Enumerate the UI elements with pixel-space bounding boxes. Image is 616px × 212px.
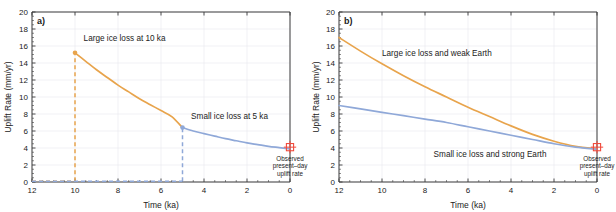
x-tick-label: 12: [28, 186, 37, 195]
observed-present-day-uplift-rate: Observedpresent–dayuplift rate: [580, 141, 616, 178]
small-ice-strong-earth-label: Small ice loss and strong Earth: [434, 150, 547, 159]
small-ice-loss-label: Small ice loss at 5 ka: [191, 112, 268, 121]
y-axis: 02468101214161820: [19, 8, 35, 187]
x-tick-label: 4: [202, 186, 207, 195]
observed-label-line: uplift rate: [277, 170, 303, 178]
x-tick-label: 0: [595, 186, 600, 195]
y-tick-label: 16: [326, 42, 335, 51]
y-tick-label: 8: [331, 110, 336, 119]
x-tick-label: 0: [288, 186, 293, 195]
y-tick-label: 14: [326, 59, 335, 68]
y-tick-label: 8: [24, 110, 29, 119]
y-tick-label: 10: [19, 93, 28, 102]
chart-panel-b: 02468101214161820121086420Time (ka)Uplif…: [308, 0, 616, 212]
y-tick-label: 2: [24, 161, 29, 170]
y-tick-label: 16: [19, 42, 28, 51]
x-tick-label: 2: [552, 186, 557, 195]
y-tick-label: 12: [19, 76, 28, 85]
y-tick-label: 20: [326, 8, 335, 17]
x-tick-label: 8: [423, 186, 428, 195]
panel-letter-a: a): [37, 16, 45, 26]
y-tick-label: 10: [326, 93, 335, 102]
x-axis-title: Time (ka): [450, 200, 486, 210]
x-tick-label: 6: [466, 186, 471, 195]
x-tick-label: 12: [335, 186, 344, 195]
x-tick-label: 2: [245, 186, 250, 195]
y-tick-label: 20: [19, 8, 28, 17]
annotations-group: Large ice loss at 10 kaSmall ice loss at…: [84, 34, 269, 121]
x-axis-title: Time (ka): [143, 200, 179, 210]
large-ice-weak-earth-label: Large ice loss and weak Earth: [382, 49, 492, 58]
y-tick-label: 18: [19, 25, 28, 34]
y-tick-label: 12: [326, 76, 335, 85]
annotations-group: Large ice loss and weak EarthSmall ice l…: [382, 49, 547, 159]
y-axis-title: Uplift Rate (mm/yr): [311, 61, 321, 132]
y-tick-label: 14: [19, 59, 28, 68]
x-axis: 121086420: [335, 12, 600, 195]
y-tick-label: 6: [331, 127, 336, 136]
data-point-marker: [180, 125, 185, 130]
observed-present-day-uplift-rate: Observedpresent–dayuplift rate: [273, 141, 308, 178]
y-tick-label: 2: [331, 161, 336, 170]
x-tick-label: 10: [378, 186, 387, 195]
observed-label-line: Observed: [276, 155, 304, 162]
series-curve: [75, 53, 183, 128]
x-tick-label: 4: [509, 186, 514, 195]
y-tick-label: 4: [24, 144, 29, 153]
x-tick-label: 10: [71, 186, 80, 195]
y-tick-label: 18: [326, 25, 335, 34]
chart-panel-a: 02468101214161820121086420Time (ka)Uplif…: [0, 0, 308, 212]
observed-label-line: Observed: [583, 155, 611, 162]
data-point-marker: [73, 51, 78, 56]
y-tick-label: 6: [24, 127, 29, 136]
x-tick-label: 8: [116, 186, 121, 195]
observed-label-line: uplift rate: [584, 170, 610, 178]
y-axis-title: Uplift Rate (mm/yr): [3, 61, 13, 132]
panel-letter-b: b): [344, 16, 353, 26]
y-tick-label: 4: [331, 144, 336, 153]
y-axis: 02468101214161820: [326, 8, 342, 187]
figure-root: 02468101214161820121086420Time (ka)Uplif…: [0, 0, 616, 212]
x-tick-label: 6: [159, 186, 164, 195]
large-ice-loss-label: Large ice loss at 10 ka: [84, 34, 166, 43]
